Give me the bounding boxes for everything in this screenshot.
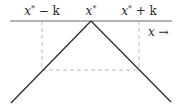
label-x-star-minus-k: x* − k bbox=[24, 4, 60, 18]
label-x-star-plus-k: x* + k bbox=[121, 4, 157, 18]
label-x-axis-arrow: x → bbox=[148, 25, 169, 39]
left-slope-line bbox=[11, 21, 91, 103]
label-x-star: x* bbox=[86, 4, 97, 18]
v-shape-diagram: x* − k x* x* + k x → bbox=[0, 0, 181, 110]
